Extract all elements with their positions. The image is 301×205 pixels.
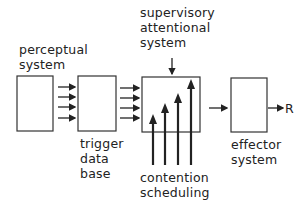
effector-system-box: [231, 78, 267, 132]
trigger-data-base-label: trigger data base: [80, 136, 124, 181]
contention-scheduling-label: contention scheduling: [140, 170, 210, 200]
effector-system-label: effector system: [231, 137, 281, 167]
supervisory-attentional-system-label: supervisory attentional system: [140, 5, 215, 50]
output-r-label: R: [285, 101, 294, 116]
trigger-data-base-box: [78, 76, 116, 131]
contention-arrows: [153, 86, 191, 165]
arrows: [58, 58, 283, 118]
perceptual-system-label: perceptual system: [19, 42, 88, 72]
perceptual-system-box: [17, 76, 53, 131]
